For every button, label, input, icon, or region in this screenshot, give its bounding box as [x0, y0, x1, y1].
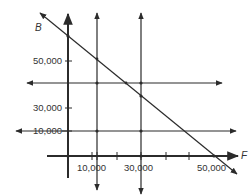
intersection-point — [95, 129, 98, 132]
intersection-point — [139, 94, 142, 97]
x-tick-label: 30,000 — [124, 163, 153, 173]
y-tick-label: 50,000 — [33, 56, 62, 66]
intersection-point — [139, 154, 142, 157]
x-tick-label: 10,000 — [77, 163, 106, 173]
intersection-point — [139, 129, 142, 132]
intersection-point — [66, 154, 69, 157]
intersection-point — [66, 34, 69, 37]
y-axis-label: B — [35, 23, 42, 33]
y-tick-label: 10,000 — [33, 126, 62, 136]
intersection-point — [212, 154, 215, 157]
intersection-point — [139, 81, 142, 84]
line-diagonal — [40, 13, 237, 174]
intersection-point — [125, 82, 128, 85]
y-tick-label: 30,000 — [33, 103, 62, 113]
x-axis-label: F — [241, 151, 247, 161]
intersection-point — [96, 58, 99, 61]
x-tick-label: 50,000 — [197, 163, 226, 173]
intersection-point — [95, 81, 98, 84]
